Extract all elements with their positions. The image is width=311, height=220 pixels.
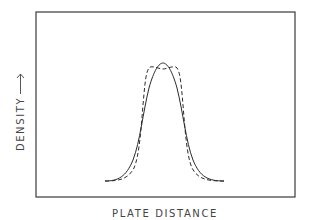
y-axis-label-group: DENSITY [15,74,26,151]
x-axis-label: PLATE DISTANCE [112,208,218,219]
arrow-up-icon [17,74,24,94]
plot-frame [36,12,295,197]
solid-curve [105,63,224,181]
y-axis-label: DENSITY [15,97,26,151]
density-chart: PLATE DISTANCE DENSITY [0,0,311,220]
dashed-curve [105,67,224,181]
